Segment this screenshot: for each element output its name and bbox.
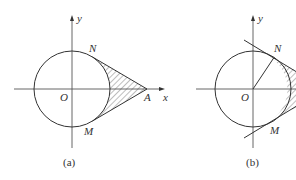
point-M-label-b: M — [269, 124, 280, 136]
radius-ON — [253, 58, 274, 90]
point-M-label-a: M — [83, 125, 94, 137]
y-axis-arrow-icon — [70, 15, 74, 21]
point-N-label-b: N — [273, 42, 282, 54]
y-axis-arrow-b-icon — [251, 15, 255, 21]
caption-b: (b) — [246, 156, 259, 169]
figure-b: y O N M (b) — [196, 12, 296, 169]
origin-label-b: O — [241, 91, 249, 103]
point-N-label-a: N — [88, 42, 97, 54]
diagram-canvas: y x O N M A (a) y O N M (b) — [0, 0, 296, 180]
caption-a: (a) — [63, 156, 76, 169]
y-axis-label-a: y — [76, 12, 82, 24]
x-axis-label-a: x — [162, 91, 168, 103]
point-A-label: A — [143, 91, 151, 103]
origin-label-a: O — [60, 91, 68, 103]
y-axis-label-b: y — [257, 12, 263, 24]
figure-a: y x O N M A (a) — [14, 12, 168, 169]
